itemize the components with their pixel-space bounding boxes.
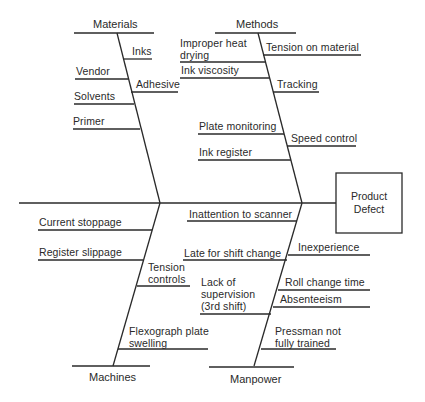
cause-inexperience: Inexperience — [298, 241, 359, 253]
cause-tension-controls: Tension controls — [148, 261, 186, 285]
effect-label-line1: Product — [351, 190, 387, 203]
cause-flexograph-plate-swelling: Flexograph plate swelling — [129, 325, 209, 349]
cause-inattention-to-scanner: Inattention to scanner — [189, 208, 292, 220]
effect-box: Product Defect — [336, 173, 402, 233]
effect-label-line2: Defect — [351, 203, 387, 216]
category-methods: Methods — [236, 18, 278, 31]
cause-lack-of-supervision: Lack of supervision (3rd shift) — [201, 276, 255, 312]
cause-speed-control: Speed control — [291, 132, 357, 144]
cause-pressman-not-fully-trained: Pressman not fully trained — [275, 325, 341, 349]
cause-lack-sup-line3: (3rd shift) — [201, 300, 255, 312]
cause-tension-controls-line1: Tension — [148, 261, 186, 273]
category-machines: Machines — [89, 371, 136, 384]
cause-register-slippage: Register slippage — [39, 246, 122, 258]
cause-flexograph-line2: swelling — [129, 337, 209, 349]
cause-late-for-shift-change: Late for shift change — [184, 247, 281, 259]
cause-tension-on-material: Tension on material — [266, 41, 359, 53]
cause-lack-sup-line2: supervision — [201, 288, 255, 300]
cause-adhesive: Adhesive — [136, 78, 180, 90]
cause-vendor: Vendor — [76, 65, 110, 77]
cause-pressman-line1: Pressman not — [275, 325, 341, 337]
cause-primer: Primer — [73, 115, 105, 127]
cause-lack-sup-line1: Lack of — [201, 276, 255, 288]
cause-flexograph-line1: Flexograph plate — [129, 325, 209, 337]
cause-improper-heat-line2: drying — [180, 49, 247, 61]
cause-absenteeism: Absenteeism — [280, 293, 342, 305]
category-manpower: Manpower — [230, 373, 281, 386]
cause-current-stoppage: Current stoppage — [39, 216, 122, 228]
cause-improper-heat-drying: Improper heat drying — [180, 37, 247, 61]
cause-improper-heat-line1: Improper heat — [180, 37, 247, 49]
cause-ink-register: Ink register — [199, 146, 252, 158]
cause-ink-viscosity: Ink viscosity — [181, 64, 239, 76]
cause-tension-controls-line2: controls — [148, 273, 186, 285]
cause-solvents: Solvents — [74, 90, 115, 102]
cause-plate-monitoring: Plate monitoring — [199, 120, 276, 132]
cause-roll-change-time: Roll change time — [285, 276, 365, 288]
category-materials: Materials — [93, 18, 138, 31]
cause-pressman-line2: fully trained — [275, 337, 341, 349]
cause-inks: Inks — [132, 45, 152, 57]
cause-tracking: Tracking — [277, 78, 318, 90]
